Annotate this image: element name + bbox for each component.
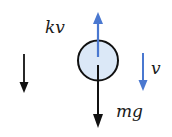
- velocity-arrow-icon: [139, 53, 148, 91]
- free-body-diagram: kv mg v: [0, 0, 172, 137]
- gravity-force-label: mg: [116, 101, 143, 121]
- reference-down-arrow-icon: [20, 54, 29, 93]
- drag-force-label: kv: [45, 17, 65, 37]
- velocity-label: v: [151, 58, 161, 78]
